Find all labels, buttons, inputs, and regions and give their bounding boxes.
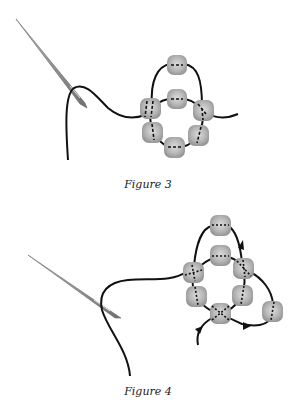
thread — [101, 272, 186, 376]
figure-4 — [28, 215, 283, 376]
arrow-icon — [243, 322, 251, 330]
bead — [210, 245, 231, 266]
needle-icon — [16, 19, 87, 108]
bead — [188, 125, 209, 146]
bead — [210, 303, 231, 324]
arrow-icon — [195, 326, 203, 334]
bead — [167, 55, 187, 75]
figure-3 — [16, 19, 238, 160]
bead — [140, 98, 161, 119]
beading-diagram — [0, 0, 296, 419]
bead — [183, 262, 204, 283]
bead — [232, 285, 253, 306]
bead — [186, 286, 207, 307]
needle-icon — [28, 255, 121, 318]
bead — [193, 100, 214, 121]
bead — [262, 301, 283, 322]
bead — [142, 122, 163, 143]
figure-3-caption: Figure 3 — [0, 178, 296, 191]
bead — [210, 215, 231, 236]
figure-4-caption: Figure 4 — [0, 385, 296, 398]
bead — [164, 137, 185, 158]
bead — [233, 258, 254, 279]
bead — [167, 89, 187, 109]
